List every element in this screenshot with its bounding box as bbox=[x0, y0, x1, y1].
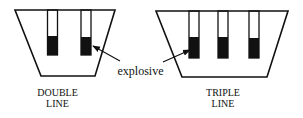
tube bbox=[81, 10, 91, 55]
triple-line-figure bbox=[156, 11, 288, 77]
trench-outline bbox=[15, 10, 115, 76]
triple-caption-line1: TRIPLE bbox=[206, 87, 240, 98]
triple-caption-line2: LINE bbox=[212, 98, 235, 109]
explosive-line-diagram: explosive DOUBLE LINE TRIPLE LINE bbox=[0, 0, 303, 118]
explosive-charge bbox=[81, 37, 91, 55]
arrow-icon bbox=[163, 50, 190, 62]
double-line-figure bbox=[15, 10, 115, 76]
explosive-charge bbox=[48, 36, 58, 55]
double-caption-line2: LINE bbox=[46, 98, 69, 109]
explosive-charge bbox=[218, 37, 228, 58]
explosive-charge bbox=[189, 37, 199, 58]
double-caption-line1: DOUBLE bbox=[37, 87, 78, 98]
explosive-label: explosive bbox=[118, 64, 164, 78]
explosive-charge bbox=[249, 38, 259, 58]
tube bbox=[218, 11, 228, 58]
tube bbox=[189, 11, 199, 58]
tube bbox=[48, 10, 58, 55]
tube bbox=[249, 11, 259, 58]
arrow-icon bbox=[93, 46, 120, 61]
